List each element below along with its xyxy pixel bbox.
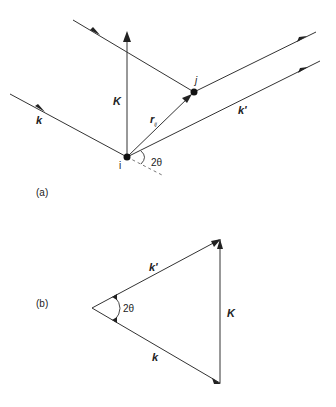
r-ij-label: rij (150, 113, 158, 127)
arrowhead-icon (112, 317, 117, 323)
panel-b: k' k K 2θ (b) (36, 239, 236, 384)
scattering-diagram: i j K k k' rij 2θ (a) k' k K 2θ (b) (0, 0, 336, 407)
vector-k-b (92, 308, 220, 383)
point-i-label: i (119, 160, 121, 171)
arrowhead-icon (112, 294, 117, 300)
vector-k-prime-b (92, 240, 219, 308)
point-j-label: j (193, 75, 198, 86)
outgoing-ray-k-prime (127, 61, 320, 157)
arrowhead-icon (123, 31, 131, 42)
K-label: K (113, 95, 122, 107)
angle-arc-b (115, 297, 120, 320)
K-label-b: K (227, 307, 236, 319)
point-i (124, 154, 131, 161)
angle-arc (141, 151, 145, 164)
k-label: k (36, 114, 43, 126)
k-prime-label-b: k' (149, 261, 158, 273)
point-j (191, 89, 198, 96)
k-label-b: k (152, 351, 159, 363)
panel-b-label: (b) (36, 298, 48, 309)
angle-label-b: 2θ (123, 303, 135, 314)
angle-label: 2θ (151, 157, 163, 168)
panel-a: i j K k k' rij 2θ (a) (10, 20, 320, 198)
vector-r-ij (127, 96, 190, 157)
k-prime-label: k' (238, 104, 247, 116)
incoming-ray-j (73, 20, 194, 92)
incoming-ray-k (10, 94, 127, 157)
panel-a-label: (a) (36, 187, 48, 198)
